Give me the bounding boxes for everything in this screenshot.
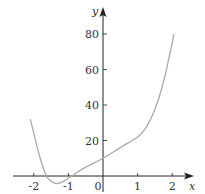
x-tick-label: 0: [95, 180, 102, 193]
data-curve: [30, 34, 174, 183]
axes: [13, 7, 194, 192]
x-tick-label: 2: [169, 180, 176, 193]
x-tick-label: -2: [28, 180, 39, 193]
chart-canvas: -2-1012 20406080 x y: [0, 0, 205, 194]
y-tick-label: 20: [85, 135, 99, 148]
y-tick-label: 60: [85, 64, 99, 77]
x-axis-label: x: [189, 180, 196, 193]
y-axis-label: y: [91, 5, 99, 18]
y-tick-label: 40: [85, 99, 99, 112]
x-tick-label: -1: [63, 180, 74, 193]
y-tick-label: 80: [85, 28, 99, 41]
x-tick-label: 1: [134, 180, 141, 193]
y-ticks: 20406080: [85, 28, 107, 148]
